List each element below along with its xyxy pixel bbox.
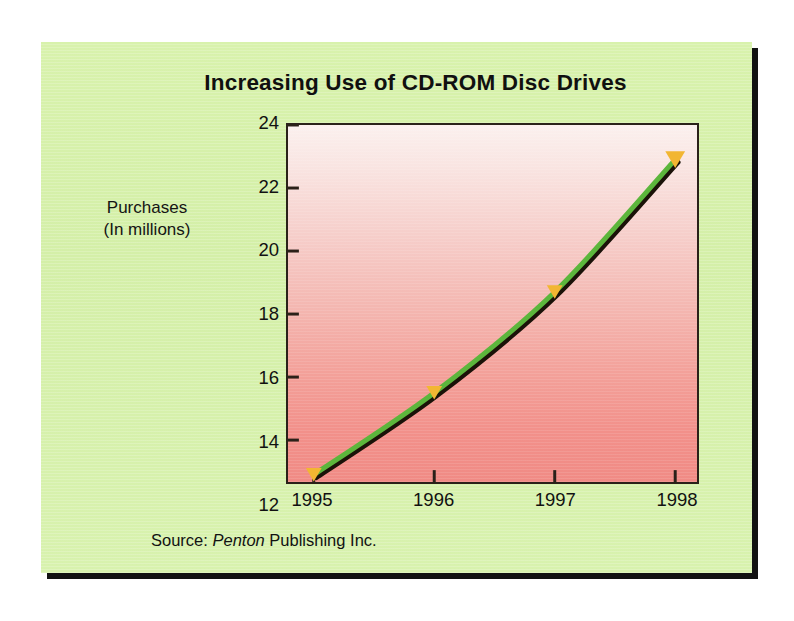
y-axis-tick-labels: 12141618202224 (227, 123, 279, 484)
x-axis-tick-labels: 1995199619971998 (286, 489, 699, 519)
y-axis-tick-label: 18 (233, 303, 279, 325)
x-axis-tick-label: 1998 (637, 489, 717, 511)
y-axis-title-line-2: (In millions) (57, 219, 237, 241)
source-emphasis: Penton (212, 531, 264, 549)
x-axis-tick-label: 1995 (272, 489, 352, 511)
x-axis-tick-label: 1996 (394, 489, 474, 511)
chart-title: Increasing Use of CD-ROM Disc Drives (41, 70, 752, 96)
source-prefix: Source: (151, 531, 212, 549)
y-axis-tick-label: 20 (233, 239, 279, 261)
y-axis-title: Purchases (In millions) (57, 197, 237, 241)
data-line (314, 160, 675, 475)
source-note: Source: Penton Publishing Inc. (151, 531, 377, 550)
chart-panel: Increasing Use of CD-ROM Disc Drives Pur… (41, 42, 752, 573)
y-axis-tick-label: 14 (233, 431, 279, 453)
y-axis-tick-label: 16 (233, 367, 279, 389)
source-suffix: Publishing Inc. (265, 531, 377, 549)
y-axis-title-line-1: Purchases (57, 197, 237, 219)
chart-figure: Increasing Use of CD-ROM Disc Drives Pur… (41, 42, 752, 573)
data-line-shadow (316, 162, 677, 477)
x-axis-ticks (314, 470, 675, 482)
plot-svg (288, 125, 697, 482)
y-axis-tick-label: 22 (233, 176, 279, 198)
y-axis-tick-label: 24 (233, 112, 279, 134)
y-axis-ticks (288, 125, 299, 440)
plot-area (286, 123, 699, 484)
x-axis-tick-label: 1997 (515, 489, 595, 511)
data-markers (306, 151, 685, 481)
